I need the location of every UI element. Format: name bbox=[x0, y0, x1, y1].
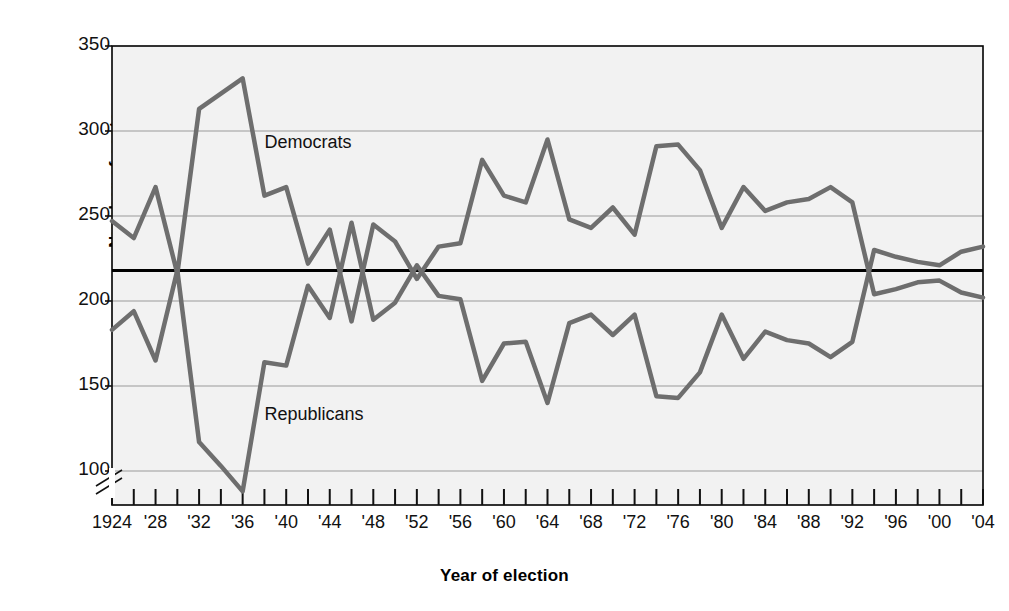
series-label-democrats: Democrats bbox=[264, 132, 351, 152]
y-axis-break-gap bbox=[109, 468, 115, 498]
series-label-republicans: Republicans bbox=[264, 404, 363, 424]
chart-plot-area: DemocratsRepublicans bbox=[0, 0, 1009, 611]
plot-background bbox=[112, 46, 983, 505]
chart-figure: Number of seats Year of election 1001502… bbox=[0, 0, 1009, 611]
